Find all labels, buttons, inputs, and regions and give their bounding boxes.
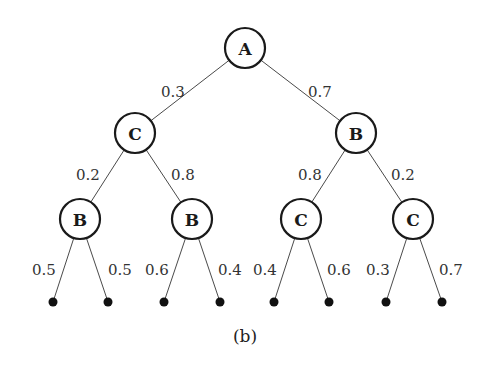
tree-edge <box>86 238 108 302</box>
edge-probability-label: 0.8 <box>298 166 322 184</box>
edge-probability-label: 0.2 <box>76 166 100 184</box>
edge-probability-label: 0.8 <box>171 166 195 184</box>
node-label: C <box>128 124 142 144</box>
leaf-dot <box>216 298 225 307</box>
tree-node-c: C <box>393 199 433 239</box>
tree-node-c: C <box>281 199 321 239</box>
tree-node-b: B <box>336 113 376 153</box>
nodes-layer: ACBBBCC <box>60 28 433 239</box>
node-label: A <box>237 39 252 59</box>
leaf-dot <box>382 298 391 307</box>
edge-probability-label: 0.6 <box>145 261 169 279</box>
tree-node-b: B <box>60 199 100 239</box>
edge-probability-label: 0.4 <box>253 261 277 279</box>
tree-node-b: B <box>172 199 212 239</box>
leaf-dot <box>325 298 334 307</box>
leaf-dot <box>104 298 113 307</box>
tree-edge <box>307 238 329 302</box>
edge-probability-label: 0.4 <box>218 261 242 279</box>
leaf-dot <box>270 298 279 307</box>
node-label: B <box>349 124 363 144</box>
edge-probability-label: 0.3 <box>366 261 390 279</box>
tree-edge <box>198 238 220 302</box>
edge-probability-label: 0.6 <box>327 261 351 279</box>
node-label: C <box>406 210 420 230</box>
tree-node-c: C <box>115 113 155 153</box>
tree-edge <box>274 238 295 302</box>
probability-tree-diagram: 0.30.70.20.80.80.20.50.50.60.40.40.60.30… <box>0 0 485 366</box>
leaves-layer <box>49 298 447 307</box>
edge-probability-label: 0.2 <box>391 166 415 184</box>
edge-probability-label: 0.3 <box>161 83 185 101</box>
edge-probability-label: 0.7 <box>308 83 332 101</box>
tree-node-a: A <box>225 28 265 68</box>
node-label: C <box>294 210 308 230</box>
node-label: B <box>185 210 199 230</box>
leaf-dot <box>160 298 169 307</box>
edge-probability-label: 0.5 <box>108 261 132 279</box>
edge-labels-layer: 0.30.70.20.80.80.20.50.50.60.40.40.60.30… <box>32 83 463 279</box>
figure-caption: (b) <box>233 326 257 346</box>
node-label: B <box>73 210 87 230</box>
edge-probability-label: 0.5 <box>32 261 56 279</box>
tree-edge <box>53 238 74 302</box>
leaf-dot <box>49 298 58 307</box>
leaf-dot <box>438 298 447 307</box>
edge-probability-label: 0.7 <box>439 261 463 279</box>
